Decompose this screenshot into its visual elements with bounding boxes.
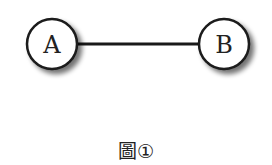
node-b-label: B (215, 31, 233, 59)
node-b: B (199, 19, 249, 69)
node-a: A (27, 19, 77, 69)
figure-caption: 圖① (0, 136, 272, 163)
node-a-label: A (42, 31, 61, 59)
